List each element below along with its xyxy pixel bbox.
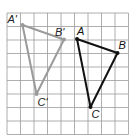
vertex-label: A — [76, 25, 84, 37]
vertex-point — [75, 37, 79, 41]
vertex-label: C' — [38, 96, 49, 108]
vertex-point — [21, 23, 25, 27]
vertex-point — [62, 38, 66, 42]
vertex-label: B' — [55, 26, 65, 38]
vertex-label: C — [92, 108, 100, 120]
preimage-triangle-abc: ABC — [75, 25, 126, 120]
coordinate-grid — [7, 13, 129, 135]
vertex-label: B — [119, 39, 126, 51]
translation-diagram: A'B'C' ABC — [0, 0, 131, 140]
triangle-outline — [77, 39, 118, 107]
vertex-point — [116, 51, 120, 55]
vertex-label: A' — [7, 13, 18, 25]
